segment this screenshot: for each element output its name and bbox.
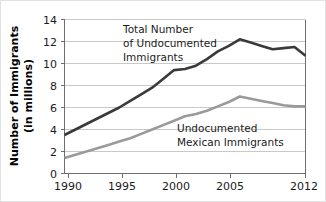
annotation-mexican-line1: Undocumented (177, 122, 257, 134)
x-tick-labels: 1990 1995 2000 2005 2012 (54, 180, 318, 193)
series-line-total-undocumented (65, 39, 306, 135)
x-tick-label-2005: 2005 (216, 180, 244, 193)
y-tick-label-2: 2 (50, 146, 57, 159)
annotation-total-line2: of Undocumented (123, 37, 217, 49)
y-tick-marks (61, 20, 65, 174)
x-tick-marks (69, 174, 306, 178)
x-tick-label-1990: 1990 (54, 180, 82, 193)
annotation-total-line1: Total Number (122, 23, 194, 35)
y-tick-label-6: 6 (50, 102, 57, 115)
y-tick-label-8: 8 (50, 80, 57, 93)
x-tick-label-2000: 2000 (162, 180, 190, 193)
chart-canvas: 14 12 10 8 6 4 2 0 1990 1995 2000 2005 2… (1, 1, 326, 202)
annotation-total-line3: Immigrants (123, 51, 183, 63)
y-tick-labels: 14 12 10 8 6 4 2 0 (43, 14, 57, 181)
y-tick-label-4: 4 (50, 124, 57, 137)
y-tick-label-14: 14 (43, 14, 57, 27)
x-tick-label-2012: 2012 (290, 180, 318, 193)
x-tick-label-1995: 1995 (108, 180, 136, 193)
y-axis-title: Number of Immigrants (in millions) (8, 25, 35, 166)
y-tick-label-0: 0 (50, 168, 57, 181)
annotation-mexican-line2: Mexican Immigrants (177, 136, 284, 148)
y-axis-title-line1: Number of Immigrants (8, 25, 21, 166)
y-tick-label-12: 12 (43, 36, 57, 49)
y-axis-title-line2: (in millions) (22, 59, 35, 133)
immigration-line-chart: 14 12 10 8 6 4 2 0 1990 1995 2000 2005 2… (0, 0, 326, 202)
y-tick-label-10: 10 (43, 58, 57, 71)
annotation-mexican: Undocumented Mexican Immigrants (177, 122, 284, 148)
annotation-total: Total Number of Undocumented Immigrants (122, 23, 217, 63)
